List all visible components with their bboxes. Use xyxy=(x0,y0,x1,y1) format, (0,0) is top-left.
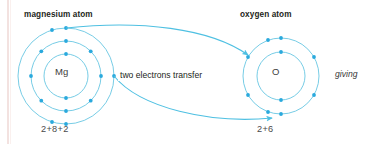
electron-dot xyxy=(64,52,68,56)
electron-dot xyxy=(279,112,283,116)
o-shell-2 xyxy=(243,38,319,114)
electron-transfer-arrow-upper xyxy=(66,25,248,55)
magnesium-configuration-label: 2+8+2 xyxy=(41,124,69,134)
oxygen-nucleus-label: O xyxy=(272,66,279,77)
electron-transfer-diagram: magnesium atom oxygen atom Mg O 2+8+2 2+… xyxy=(0,0,377,144)
electron-dot xyxy=(312,55,316,59)
electron-dot xyxy=(246,93,250,97)
electron-dot xyxy=(266,38,270,42)
electron-dot xyxy=(39,49,43,53)
electron-dot xyxy=(50,28,54,32)
electron-dot xyxy=(279,36,283,40)
electron-dot xyxy=(279,98,283,102)
magnesium-electrons xyxy=(29,26,116,126)
o-shell-1 xyxy=(257,52,305,100)
oxygen-configuration-label: 2+6 xyxy=(257,124,274,134)
electron-dot xyxy=(39,99,43,103)
oxygen-shells xyxy=(243,38,319,114)
electron-dot xyxy=(266,110,270,114)
electron-dot xyxy=(279,50,283,54)
electron-dot xyxy=(64,109,68,113)
electron-dot xyxy=(89,49,93,53)
electron-dot xyxy=(64,39,68,43)
electron-transfer-label: two electrons transfer xyxy=(118,69,204,81)
oxygen-electrons xyxy=(246,36,316,116)
electron-dot xyxy=(246,55,250,59)
electron-dot xyxy=(99,74,103,78)
electron-dot xyxy=(89,99,93,103)
electron-dot xyxy=(29,74,33,78)
electron-dot xyxy=(64,96,68,100)
electron-dot xyxy=(312,93,316,97)
giving-label: giving xyxy=(335,69,357,79)
magnesium-atom-title: magnesium atom xyxy=(24,10,93,19)
magnesium-nucleus-label: Mg xyxy=(55,66,68,77)
oxygen-atom-title: oxygen atom xyxy=(240,10,292,19)
electron-transfer-arrow-lower xyxy=(114,76,272,119)
